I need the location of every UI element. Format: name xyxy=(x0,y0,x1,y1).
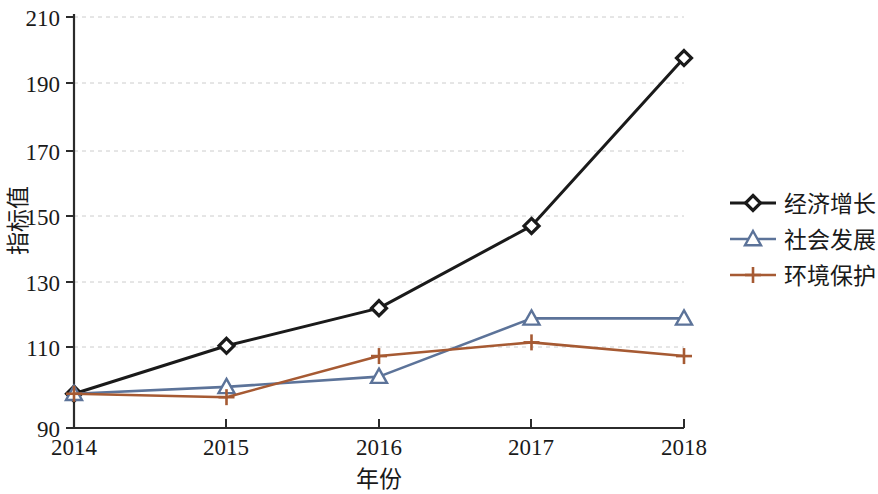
chart-legend: 经济增长社会发展环境保护 xyxy=(730,192,876,289)
legend-item-2[interactable]: 社会发展 xyxy=(730,228,876,253)
line-chart: 210 190 170 150 130 110 90 2014 2015 201… xyxy=(0,0,878,494)
x-tick-label-2015: 2015 xyxy=(203,435,249,460)
x-axis-title: 年份 xyxy=(356,467,402,492)
chart-svg: 210 190 170 150 130 110 90 2014 2015 201… xyxy=(0,0,878,494)
y-tick-label-190: 190 xyxy=(26,72,61,97)
data-point-3-2 xyxy=(371,348,387,364)
legend-label-3: 环境保护 xyxy=(784,264,876,289)
series-layer xyxy=(66,51,692,406)
data-point-1-2 xyxy=(372,301,387,316)
x-tick-labels: 2014 2015 2016 2017 2018 xyxy=(51,435,707,460)
legend-item-1[interactable]: 经济增长 xyxy=(730,192,876,217)
y-tick-label-170: 170 xyxy=(26,140,61,165)
x-tick-label-2017: 2017 xyxy=(508,435,554,460)
data-point-3-4 xyxy=(676,348,692,364)
y-tick-label-110: 110 xyxy=(26,336,60,361)
x-tick-label-2016: 2016 xyxy=(356,435,402,460)
x-tick-label-2018: 2018 xyxy=(661,435,707,460)
y-tick-label-210: 210 xyxy=(26,6,61,31)
data-point-1-1 xyxy=(219,338,234,353)
legend-marker-3 xyxy=(745,267,761,283)
legend-label-2: 社会发展 xyxy=(784,228,876,253)
gridlines xyxy=(74,17,684,347)
legend-marker-1 xyxy=(746,196,761,211)
y-axis-title: 指标值 xyxy=(6,186,31,255)
x-tick-label-2014: 2014 xyxy=(51,435,98,460)
data-point-3-3 xyxy=(524,334,540,350)
legend-label-1: 经济增长 xyxy=(784,192,876,217)
series-line-1 xyxy=(74,58,684,394)
legend-item-3[interactable]: 环境保护 xyxy=(730,264,876,289)
y-tick-label-130: 130 xyxy=(26,271,61,296)
